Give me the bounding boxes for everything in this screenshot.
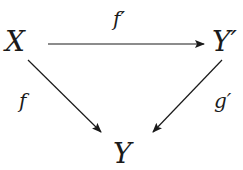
node-y: Y	[113, 140, 131, 168]
label-f-prime: f′	[113, 9, 125, 29]
label-g-prime: g′	[214, 91, 231, 111]
label-f: f	[19, 91, 26, 111]
node-y-prime: Y′	[212, 28, 237, 56]
arrow-left	[28, 60, 101, 132]
arrow-right	[153, 60, 222, 132]
node-x: X	[5, 28, 25, 56]
